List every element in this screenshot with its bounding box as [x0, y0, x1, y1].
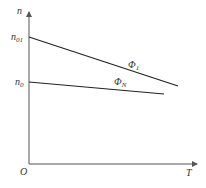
origin-label: O	[20, 166, 27, 177]
curve-label-phi-n: ΦN	[114, 76, 127, 89]
curve-phi-n	[29, 82, 164, 94]
y-tick-n0: n0	[15, 76, 24, 89]
curve-phi-1	[29, 37, 178, 86]
x-axis-label: T	[186, 167, 193, 178]
y-axis-label: n	[17, 5, 22, 16]
characteristic-diagram: n T O n01 n0 Φ1 ΦN	[0, 0, 206, 188]
y-tick-n01: n01	[11, 31, 23, 44]
